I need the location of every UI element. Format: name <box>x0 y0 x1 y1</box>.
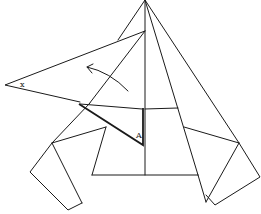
right-foot-inner <box>198 175 206 202</box>
right-wing-crease <box>184 127 239 143</box>
flap-outline <box>5 31 145 102</box>
label-x: x <box>20 80 25 89</box>
arrow-shaft <box>87 67 128 91</box>
right-inner-diagonal <box>145 0 198 175</box>
mid-horizontal-crease <box>145 108 178 109</box>
left-upper-edge <box>118 0 145 40</box>
lifted-flap <box>5 31 145 145</box>
right-outer-edge <box>145 0 260 205</box>
flap-base-edge <box>80 104 142 109</box>
label-a: A <box>135 131 142 140</box>
origami-diagram: x A <box>0 0 261 214</box>
flap-underside <box>79 104 143 145</box>
left-outer-edge <box>30 103 90 210</box>
left-foot-inner <box>92 127 106 175</box>
left-foot-crease <box>52 143 82 203</box>
fold-arrow <box>87 64 128 91</box>
